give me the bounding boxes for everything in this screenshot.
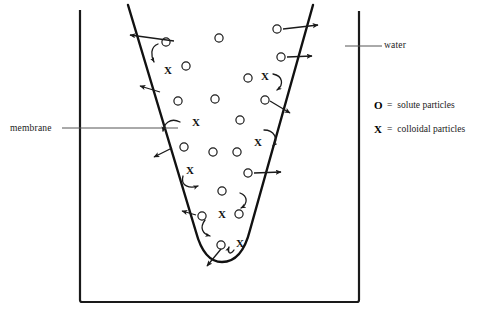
legend-equals-sign: = <box>387 100 392 110</box>
solute-crossing-arrow-group <box>130 25 318 266</box>
diagram-canvas: X X X X X X X <box>0 0 487 318</box>
solute-particle <box>236 116 244 124</box>
colloidal-particle: X <box>236 237 244 249</box>
diagram-container: X X X X X X X <box>0 0 487 318</box>
legend-label-colloidal: colloidal particles <box>397 124 465 134</box>
colloidal-particle: X <box>254 136 262 148</box>
solute-crossing-arrow <box>140 86 160 92</box>
colloid-rebound-arrow <box>240 193 246 208</box>
circle-icon: O <box>374 99 387 111</box>
solute-crossing-arrow <box>154 148 172 157</box>
solute-particle <box>174 97 182 105</box>
colloid-rebound-arrow <box>273 74 282 90</box>
colloid-rebound-arrow <box>202 220 210 236</box>
solute-particle <box>244 74 252 82</box>
solute-crossing-arrow <box>270 101 290 113</box>
colloidal-particle: X <box>218 208 226 220</box>
beaker-outline <box>80 11 359 302</box>
solute-particle <box>235 210 243 218</box>
solute-particle <box>215 34 223 42</box>
colloid-rebound-arrow <box>228 247 234 253</box>
solute-particle <box>217 241 225 249</box>
colloidal-particle: X <box>164 64 172 76</box>
solute-particle <box>244 169 252 177</box>
colloidal-particle: X <box>186 164 194 176</box>
legend-item-colloidal: X = colloidal particles <box>374 123 465 135</box>
solute-particle <box>261 96 269 104</box>
colloidal-particle: X <box>261 70 269 82</box>
solute-particle <box>182 62 190 70</box>
membrane-bag <box>128 5 313 262</box>
water-label: water <box>384 40 406 50</box>
solute-particle <box>211 95 219 103</box>
solute-crossing-arrow <box>254 172 281 173</box>
solute-particle <box>198 212 206 220</box>
solute-crossing-arrow <box>287 56 312 57</box>
solute-particle <box>180 143 188 151</box>
solute-particle <box>233 148 241 156</box>
colloidal-particle: X <box>192 116 200 128</box>
legend-equals-sign: = <box>387 124 392 134</box>
solute-particle <box>273 25 281 33</box>
solute-particle <box>218 187 226 195</box>
colloid-rebound-arrow <box>182 176 198 187</box>
solute-particle <box>277 53 285 61</box>
legend-label-solute: solute particles <box>397 100 454 110</box>
colloid-rebound-arrow <box>152 44 158 62</box>
x-icon: X <box>374 123 387 135</box>
solute-crossing-arrow <box>283 25 318 29</box>
membrane-label: membrane <box>10 123 52 133</box>
legend-item-solute: O = solute particles <box>374 99 455 111</box>
solute-particle <box>209 148 217 156</box>
